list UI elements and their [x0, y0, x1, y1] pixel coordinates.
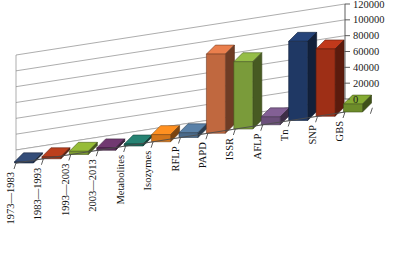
category-label: 1993—2003 — [60, 164, 71, 217]
value-axis-tick-label: 0 — [353, 94, 358, 105]
category-axis-tick — [151, 142, 153, 148]
value-axis-tick-label: 80000 — [353, 30, 379, 41]
value-axis-labels: 020000400006000080000100000120000 — [353, 0, 385, 105]
category-label: PAPD — [197, 142, 208, 168]
bar-front-face — [316, 49, 335, 116]
category-axis-tick — [124, 146, 126, 152]
value-axis-tick-label: 20000 — [353, 78, 379, 89]
bar-front-face — [289, 41, 308, 120]
value-axis — [345, 4, 350, 99]
value-axis-tick-label: 40000 — [353, 62, 379, 73]
bar — [316, 40, 344, 116]
category-label: AFLP — [252, 134, 263, 160]
value-axis-tick-label: 60000 — [353, 46, 379, 57]
category-axis-tick — [316, 116, 318, 122]
category-axis-tick — [370, 108, 372, 114]
bar — [261, 108, 289, 125]
category-label: RFLP — [170, 146, 181, 171]
bar-side-face — [335, 40, 344, 116]
bar-front-face — [344, 104, 363, 112]
category-axis-tick — [179, 138, 181, 144]
category-label: Isozymes — [142, 151, 153, 191]
bar-chart-3d: 020000400006000080000100000120000 1973—1… — [0, 0, 405, 257]
category-axis-tick — [41, 159, 43, 165]
category-label: 2003—2013 — [87, 159, 98, 212]
category-label: Metabolites — [115, 155, 126, 205]
category-axis — [14, 108, 372, 169]
category-axis-tick — [14, 163, 16, 169]
bar-side-face — [225, 45, 234, 133]
category-label: SNP — [307, 125, 318, 144]
bar-side-face — [253, 53, 262, 129]
chart-container: 020000400006000080000100000120000 1973—1… — [0, 0, 405, 257]
category-axis-tick — [261, 125, 263, 131]
bar-front-face — [206, 54, 225, 133]
category-axis-tick — [206, 133, 208, 139]
value-axis-tick-label: 100000 — [353, 14, 385, 25]
category-axis-tick — [288, 121, 290, 127]
category-axis-tick — [69, 155, 71, 161]
category-label: GBS — [334, 121, 345, 142]
value-axis-tick-label: 120000 — [353, 0, 385, 10]
category-axis-tick — [343, 112, 345, 118]
category-axis-tick — [233, 129, 235, 135]
category-label: 1983—1993 — [32, 168, 43, 221]
bar — [234, 53, 262, 129]
category-label: Tn — [279, 129, 290, 141]
category-label: 1973—1983 — [5, 172, 16, 225]
bar — [206, 45, 234, 133]
bar — [289, 32, 317, 120]
category-label: ISSR — [224, 138, 235, 160]
bar-side-face — [308, 32, 317, 120]
bar-front-face — [234, 62, 253, 129]
category-axis-tick — [96, 150, 98, 156]
